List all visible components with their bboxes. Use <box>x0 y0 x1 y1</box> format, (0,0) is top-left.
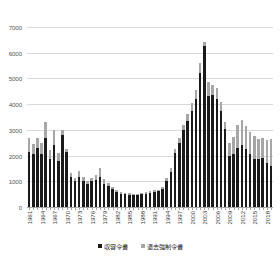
legend-swatch-icon <box>98 244 102 248</box>
bar-segment-deportation <box>236 125 239 148</box>
bar-segment-detention <box>257 159 260 207</box>
bar-stack <box>266 140 269 207</box>
bar-segment-detention <box>236 148 239 207</box>
y-axis-label-0: 0 <box>19 204 22 211</box>
bar-segment-detention <box>61 135 64 207</box>
y-axis-label-3000: 3000 <box>9 126 22 133</box>
bar-stack <box>44 122 47 207</box>
bar-stack <box>78 171 81 207</box>
bar-stack <box>111 187 114 207</box>
bar-segment-detention <box>266 163 269 207</box>
bar-stack <box>57 153 60 207</box>
bar-segment-detention <box>82 181 85 207</box>
bar-segment-detention <box>40 154 43 207</box>
bar-segment-detention <box>216 99 219 207</box>
bar-stack <box>128 193 131 207</box>
bar-segment-deportation <box>228 143 231 156</box>
bar-segment-deportation <box>99 168 102 178</box>
bar-stack <box>216 88 219 207</box>
chart-legend: 収容令書退去強制令書 <box>0 240 280 252</box>
bar-segment-deportation <box>28 138 31 151</box>
bar-segment-deportation <box>199 63 202 74</box>
bar-stack <box>103 179 106 207</box>
bar-stack <box>145 192 148 207</box>
bar-segment-detention <box>203 46 206 207</box>
bar-segment-deportation <box>261 138 264 159</box>
bar-segment-deportation <box>270 139 273 166</box>
bar-segment-deportation <box>220 102 223 110</box>
bar-segment-detention <box>107 186 110 207</box>
y-axis-label-4000: 4000 <box>9 101 22 108</box>
bar-stack <box>115 190 118 207</box>
bar-stack <box>28 138 31 207</box>
bar-segment-deportation <box>195 90 198 99</box>
bar-stack <box>86 181 89 207</box>
bar-segment-detention <box>270 166 273 207</box>
chart-container: 01000200030004000500060007000 1961196419… <box>0 0 280 256</box>
bar-segment-deportation <box>253 136 256 159</box>
y-axis-tick-labels: 01000200030004000500060007000 <box>0 27 25 207</box>
bar-stack <box>70 173 73 207</box>
y-axis-label-5000: 5000 <box>9 75 22 82</box>
legend-item-1[interactable]: 退去強制令書 <box>141 242 183 251</box>
bar-stack <box>236 125 239 207</box>
bar-segment-deportation <box>186 114 189 121</box>
y-axis-label-1000: 1000 <box>9 178 22 185</box>
bar-stack <box>107 183 110 207</box>
x-axis-tick-labels: 1961196419671970197319761979198219851988… <box>27 211 273 241</box>
bar-stack <box>82 177 85 207</box>
bar-segment-detention <box>261 158 264 207</box>
bar-segment-detention <box>53 145 56 207</box>
bar-segment-detention <box>36 148 39 207</box>
bar-stack <box>191 103 194 207</box>
bar-segment-detention <box>195 99 198 207</box>
bar-segment-detention <box>111 189 114 207</box>
bar-stack <box>228 143 231 207</box>
bar-stack <box>53 130 56 207</box>
bar-segment-deportation <box>32 144 35 154</box>
bar-segment-detention <box>95 180 98 207</box>
bar-segment-detention <box>224 129 227 207</box>
bar-stack <box>99 168 102 207</box>
bar-segment-deportation <box>44 122 47 137</box>
bar-stack <box>165 178 168 207</box>
bar-segment-detention <box>115 192 118 207</box>
bar-segment-detention <box>145 194 148 207</box>
bar-segment-detention <box>90 181 93 207</box>
plot-area <box>27 27 273 207</box>
bar-segment-deportation <box>266 140 269 163</box>
bar-stack <box>153 190 156 207</box>
bar-segment-detention <box>161 189 164 207</box>
bar-segment-detention <box>228 156 231 207</box>
bar-segment-detention <box>28 152 31 207</box>
bar-segment-detention <box>74 181 77 207</box>
bar-stack <box>157 190 160 207</box>
bar-stack <box>74 178 77 207</box>
bar-segment-detention <box>70 177 73 207</box>
bar-stack <box>65 149 68 207</box>
bar-segment-detention <box>170 172 173 207</box>
bar-segment-detention <box>241 145 244 207</box>
legend-item-0[interactable]: 収容令書 <box>98 242 128 251</box>
bar-segment-detention <box>249 154 252 207</box>
bar-stack <box>161 187 164 207</box>
bar-segment-detention <box>44 138 47 207</box>
bar-segment-detention <box>124 194 127 207</box>
bar-segment-detention <box>120 194 123 207</box>
bar-stack <box>220 102 223 207</box>
bar-stack <box>32 144 35 207</box>
bar-segment-deportation <box>49 150 52 159</box>
bar-stack <box>207 82 210 207</box>
bar-stack <box>199 63 202 208</box>
bar-segment-deportation <box>211 85 214 95</box>
bar-stack <box>136 194 139 207</box>
bar-segment-deportation <box>207 82 210 96</box>
bar-segment-detention <box>174 153 177 207</box>
bar-stack <box>253 136 256 207</box>
bar-segment-detention <box>178 143 181 207</box>
bar-segment-detention <box>32 154 35 207</box>
bar-stack <box>232 137 235 207</box>
bar-stack <box>182 125 185 207</box>
bar-stack <box>61 130 64 207</box>
bar-stack <box>124 193 127 207</box>
